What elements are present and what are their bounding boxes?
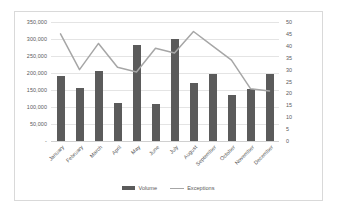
y-axis-right-tick-label: 20 bbox=[286, 90, 292, 96]
y-axis-left-tick-label: 150,000 bbox=[27, 87, 47, 93]
legend-line-swatch-icon bbox=[170, 188, 184, 189]
y-axis-right-tick-label: 30 bbox=[286, 67, 292, 73]
plot-area bbox=[51, 22, 279, 141]
y-axis-left-tick-label: 100,000 bbox=[27, 104, 47, 110]
y-axis-right-tick-label: 35 bbox=[286, 55, 292, 61]
y-axis-left-tick-label: 200,000 bbox=[27, 70, 47, 76]
x-axis-tick-label: July bbox=[168, 144, 179, 155]
y-axis-right-tick-label: 0 bbox=[286, 138, 289, 144]
y-axis-right-tick-label: 15 bbox=[286, 102, 292, 108]
x-axis-tick: January bbox=[51, 142, 70, 186]
x-axis-tick-label: June bbox=[147, 144, 160, 157]
exceptions-line[interactable] bbox=[61, 32, 270, 91]
chart-legend: VolumeExceptions bbox=[15, 185, 322, 191]
y-axis-left-tick-label: - bbox=[45, 138, 47, 144]
y-axis-right-tick-label: 25 bbox=[286, 79, 292, 85]
y-axis-left-tick-label: 350,000 bbox=[27, 19, 47, 25]
exceptions-line-series bbox=[51, 22, 279, 141]
y-axis-right-tick-label: 40 bbox=[286, 43, 292, 49]
y-axis-right: 50454035302520151050 bbox=[283, 22, 305, 141]
y-axis-right-tick-label: 50 bbox=[286, 19, 292, 25]
y-axis-right-tick-label: 5 bbox=[286, 126, 289, 132]
x-axis-tick: March bbox=[89, 142, 108, 186]
chart-container: 350,000300,000250,000200,000150,000100,0… bbox=[14, 11, 323, 201]
x-axis-tick-label: May bbox=[129, 144, 140, 155]
y-axis-right-tick-label: 45 bbox=[286, 31, 292, 37]
x-axis-tick-label: August bbox=[182, 144, 198, 160]
x-axis-tick-label: April bbox=[110, 144, 122, 156]
y-axis-left-tick-label: 250,000 bbox=[27, 53, 47, 59]
x-axis-tick-label: March bbox=[88, 144, 103, 159]
x-axis-tick: July bbox=[165, 142, 184, 186]
x-axis-tick: April bbox=[108, 142, 127, 186]
legend-bar-swatch-icon bbox=[122, 186, 135, 190]
x-axis-tick: December bbox=[260, 142, 279, 186]
legend-item[interactable]: Exceptions bbox=[170, 185, 214, 191]
y-axis-left-tick-label: 300,000 bbox=[27, 36, 47, 42]
x-axis-tick: May bbox=[127, 142, 146, 186]
y-axis-right-tick-label: 10 bbox=[286, 114, 292, 120]
legend-label: Exceptions bbox=[187, 185, 214, 191]
x-axis: JanuaryFebruaryMarchAprilMayJuneJulyAugu… bbox=[51, 142, 279, 186]
x-axis-tick: June bbox=[146, 142, 165, 186]
legend-label: Volume bbox=[138, 185, 157, 191]
x-axis-tick: February bbox=[70, 142, 89, 186]
x-axis-tick-label: January bbox=[47, 144, 65, 162]
legend-item[interactable]: Volume bbox=[122, 185, 157, 191]
y-axis-left-tick-label: 50,000 bbox=[30, 121, 47, 127]
x-axis-tick: September bbox=[203, 142, 222, 186]
y-axis-left: 350,000300,000250,000200,000150,000100,0… bbox=[15, 22, 49, 141]
